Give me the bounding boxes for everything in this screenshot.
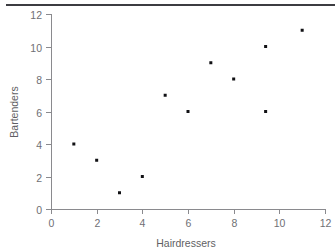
y-axis-tick-label: 12 bbox=[30, 9, 42, 21]
x-axis-tick-label: 6 bbox=[186, 217, 192, 229]
data-point bbox=[118, 191, 121, 194]
data-points-group bbox=[72, 29, 303, 195]
tick-labels-group: 024681012024681012 bbox=[30, 9, 331, 230]
data-point bbox=[301, 29, 304, 32]
y-axis-title: Bartenders bbox=[8, 86, 20, 137]
data-point bbox=[187, 110, 190, 113]
scatter-plot-canvas: 024681012024681012 Hairdressers Bartende… bbox=[0, 0, 335, 252]
data-point bbox=[264, 110, 267, 113]
x-axis-tick-label: 8 bbox=[232, 217, 238, 229]
x-axis-tick-label: 0 bbox=[49, 217, 55, 229]
data-point bbox=[232, 78, 235, 81]
data-point bbox=[164, 94, 167, 97]
y-axis-tick-label: 0 bbox=[36, 204, 42, 216]
data-point bbox=[95, 159, 98, 162]
y-axis-tick-label: 4 bbox=[36, 139, 42, 151]
data-point bbox=[264, 45, 267, 48]
x-axis-tick-label: 12 bbox=[320, 217, 332, 229]
x-axis-tick-label: 10 bbox=[274, 217, 286, 229]
scatter-plot-figure: 024681012024681012 Hairdressers Bartende… bbox=[0, 0, 335, 252]
data-point bbox=[209, 61, 212, 64]
x-axis-title: Hairdressers bbox=[156, 237, 216, 249]
y-axis-tick-label: 2 bbox=[36, 172, 42, 184]
y-axis-tick-label: 10 bbox=[30, 42, 42, 54]
y-axis-tick-label: 8 bbox=[36, 74, 42, 86]
y-axis-tick-label: 6 bbox=[36, 107, 42, 119]
data-point bbox=[72, 143, 75, 146]
x-axis-tick-label: 4 bbox=[140, 217, 146, 229]
ticks-group bbox=[46, 15, 326, 215]
x-axis-tick-label: 2 bbox=[95, 217, 101, 229]
data-point bbox=[141, 175, 144, 178]
